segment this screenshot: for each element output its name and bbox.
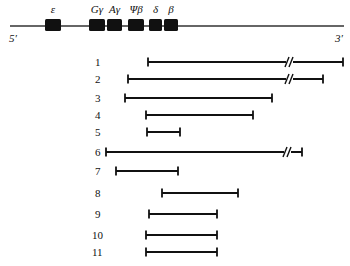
fragment-list: 1234567891011 xyxy=(92,56,343,258)
globin-locus-diagram: 5′3′εGγAγΨβδβ 1234567891011 xyxy=(0,0,350,266)
fragment-row: 6 xyxy=(95,146,302,158)
fragment-row: 7 xyxy=(95,165,178,177)
gene-box xyxy=(149,19,162,31)
fragment-row: 9 xyxy=(95,208,217,220)
fragment-row: 5 xyxy=(95,126,180,138)
fragment-row: 10 xyxy=(92,229,217,241)
gene-box xyxy=(89,19,105,31)
fragment-row: 4 xyxy=(95,109,253,121)
gene-label: Ψβ xyxy=(129,3,143,15)
fragment-number: 3 xyxy=(95,92,101,104)
fragment-row: 3 xyxy=(95,92,272,104)
fragment-number: 4 xyxy=(95,109,101,121)
gene-label: Aγ xyxy=(108,3,121,15)
fragment-number: 9 xyxy=(95,208,101,220)
gene-label: δ xyxy=(153,3,159,15)
fragment-number: 10 xyxy=(92,229,104,241)
gene-label: Gγ xyxy=(91,3,104,15)
fragment-row: 2 xyxy=(95,73,323,85)
fragment-row: 8 xyxy=(95,187,238,199)
fragment-number: 2 xyxy=(95,73,101,85)
gene-box xyxy=(164,19,178,31)
gene-box xyxy=(107,19,122,31)
fragment-number: 8 xyxy=(95,187,101,199)
five-prime-label: 5′ xyxy=(9,32,18,44)
fragment-row: 1 xyxy=(95,56,343,68)
chromosome-map: 5′3′εGγAγΨβδβ xyxy=(9,3,344,44)
gene-box xyxy=(45,19,61,31)
fragment-row: 11 xyxy=(92,246,217,258)
gene-label: β xyxy=(167,3,174,15)
fragment-number: 1 xyxy=(95,56,101,68)
break-mark-icon xyxy=(285,74,293,84)
fragment-number: 6 xyxy=(95,146,101,158)
break-mark-icon xyxy=(285,57,293,67)
gene-box xyxy=(128,19,144,31)
gene-label: ε xyxy=(51,3,56,15)
fragment-number: 5 xyxy=(95,126,101,138)
fragment-number: 7 xyxy=(95,165,101,177)
fragment-number: 11 xyxy=(92,246,103,258)
break-mark-icon xyxy=(283,147,291,157)
three-prime-label: 3′ xyxy=(334,32,344,44)
